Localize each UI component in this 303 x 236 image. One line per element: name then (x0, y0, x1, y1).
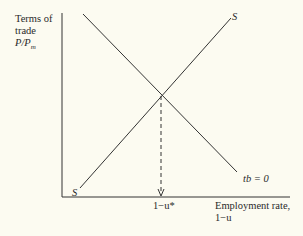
y-axis-symbol: P/P (15, 37, 31, 48)
curve-s-bottom-label: S (72, 187, 77, 199)
x-axis-label: Employment rate, 1−u (215, 200, 290, 224)
curve-tb-label: tb = 0 (243, 173, 269, 185)
y-axis-subscript: m (31, 43, 36, 51)
y-axis-label-line2: trade (15, 25, 52, 37)
y-axis-label: Terms of trade P/Pm (15, 13, 52, 53)
y-axis-label-line3: P/Pm (15, 37, 52, 53)
curve-s-top-label: S (232, 11, 237, 23)
y-axis-label-line1: Terms of (15, 13, 52, 25)
x-axis-label-line2: 1−u (215, 212, 290, 224)
x-axis-label-line1: Employment rate, (215, 200, 290, 212)
equilibrium-tick-label: 1−u* (153, 200, 175, 212)
curve-s (80, 18, 231, 188)
